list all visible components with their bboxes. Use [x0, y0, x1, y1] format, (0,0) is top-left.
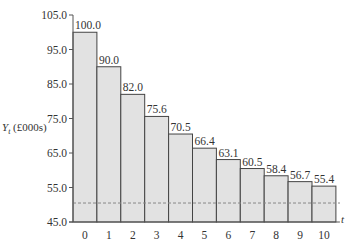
y-tick-label: 85.0	[47, 78, 67, 90]
bar-10	[312, 186, 336, 222]
bar-6	[216, 160, 240, 222]
x-tick-label: 9	[297, 229, 303, 241]
y-tick-label: 75.0	[47, 113, 67, 125]
bar-3	[145, 116, 169, 222]
bar-4	[169, 134, 193, 222]
y-tick-label: 95.0	[47, 44, 67, 56]
value-label: 56.7	[290, 169, 310, 181]
y-axis-title: Yt (£000s)	[2, 121, 47, 136]
value-label: 55.4	[314, 173, 334, 185]
x-tick-label: 4	[178, 229, 184, 241]
value-label: 70.5	[171, 121, 191, 133]
y-tick-label: 65.0	[47, 147, 67, 159]
x-tick-label: 2	[130, 229, 136, 241]
x-tick-label: 3	[154, 229, 160, 241]
x-tick-label: 10	[318, 229, 330, 241]
value-label: 75.6	[147, 103, 167, 115]
bar-7	[240, 169, 264, 222]
x-tick-label: 8	[273, 229, 279, 241]
bar-8	[264, 176, 288, 222]
bar-chart: 100.090.082.075.670.566.463.160.558.456.…	[0, 0, 351, 245]
x-axis: 012345678910	[69, 222, 340, 241]
value-label: 100.0	[75, 19, 101, 31]
bar-1	[97, 67, 121, 222]
value-label: 63.1	[218, 147, 238, 159]
x-tick-label: 0	[82, 229, 88, 241]
y-tick-label: 45.0	[47, 216, 67, 228]
y-tick-label: 105.0	[41, 9, 67, 21]
value-label: 82.0	[123, 81, 143, 93]
bar-5	[193, 148, 217, 222]
value-label: 58.4	[266, 163, 286, 175]
value-label: 60.5	[242, 156, 262, 168]
bar-0	[73, 32, 97, 222]
x-tick-label: 7	[249, 229, 255, 241]
x-tick-label: 5	[202, 229, 208, 241]
y-axis: 45.055.065.075.085.095.0105.0	[41, 9, 73, 228]
x-axis-title: t	[341, 213, 345, 225]
x-tick-label: 6	[225, 229, 231, 241]
x-tick-label: 1	[106, 229, 112, 241]
value-label: 90.0	[99, 54, 119, 66]
y-tick-label: 55.0	[47, 182, 67, 194]
value-label: 66.4	[195, 135, 215, 147]
bar-9	[288, 182, 312, 222]
